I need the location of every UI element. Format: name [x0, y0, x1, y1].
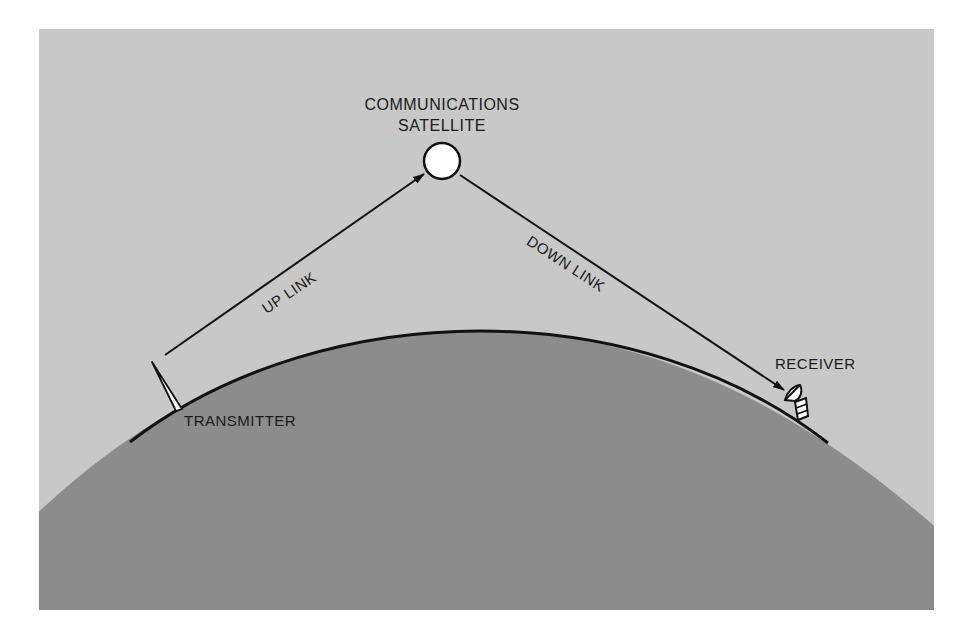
satellite-label-line2: SATELLITE [398, 117, 486, 134]
satellite-circle-icon [424, 143, 460, 179]
diagram-canvas: COMMUNICATIONS SATELLITE UP LINK DOWN LI… [0, 0, 963, 637]
receiver-label: RECEIVER [775, 355, 856, 372]
satellite-link-diagram: COMMUNICATIONS SATELLITE UP LINK DOWN LI… [0, 0, 963, 637]
satellite-label-line1: COMMUNICATIONS [364, 96, 519, 113]
transmitter-label: TRANSMITTER [184, 412, 296, 429]
